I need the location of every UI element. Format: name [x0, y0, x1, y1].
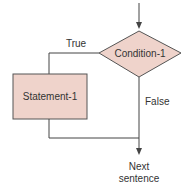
entry-arrowhead-icon [136, 22, 142, 29]
statement-label: Statement-1 [23, 91, 78, 102]
true-label: True [66, 38, 87, 49]
merge-line [49, 119, 139, 138]
next-label-line2: sentence [119, 173, 160, 184]
false-label: False [145, 96, 170, 107]
condition-label: Condition-1 [114, 48, 166, 59]
exit-arrowhead-icon [136, 148, 142, 155]
next-label-line1: Next [129, 161, 150, 172]
true-branch-line [49, 53, 99, 74]
flowchart-canvas: Condition-1 True Statement-1 False Next … [0, 0, 190, 195]
